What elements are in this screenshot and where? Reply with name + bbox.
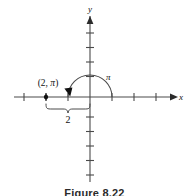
point-label: (2, π) <box>38 78 59 89</box>
x-axis-arrowhead <box>170 94 178 101</box>
y-axis-label: y <box>87 4 92 14</box>
x-axis-label: x <box>178 92 183 102</box>
coordinate-plane-graphic: x y π <box>0 0 189 196</box>
angle-label: π <box>106 72 111 82</box>
x-axis: x <box>14 92 183 102</box>
polar-point-figure: x y π <box>0 0 189 196</box>
brace-label: 2 <box>66 114 71 125</box>
point-label-close: ) <box>55 78 58 89</box>
y-axis: y <box>86 4 94 182</box>
point-label-open: (2, <box>38 78 51 89</box>
figure-caption: Figure 8.22 <box>0 187 189 196</box>
angle-arc-group: π <box>64 72 112 97</box>
y-axis-arrowhead <box>87 16 94 24</box>
measurement-brace <box>46 104 90 113</box>
brace-group: 2 <box>46 104 90 125</box>
